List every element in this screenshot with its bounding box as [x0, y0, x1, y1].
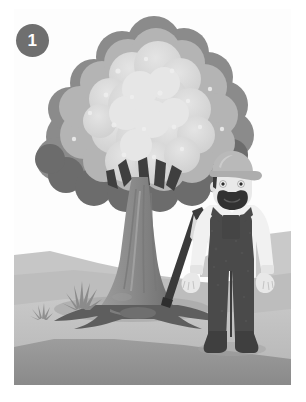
scene-artwork: [14, 9, 291, 385]
illustration-scene: 1: [0, 0, 306, 402]
illustration-frame: [14, 9, 291, 385]
step-number-badge: 1: [16, 24, 49, 57]
cuff-right: [261, 265, 274, 274]
eye-left-pupil: [221, 182, 224, 185]
overalls-bib: [222, 215, 240, 239]
cuff-left: [190, 265, 203, 274]
step-number-label: 1: [28, 32, 38, 49]
eye-right-pupil: [239, 182, 242, 185]
